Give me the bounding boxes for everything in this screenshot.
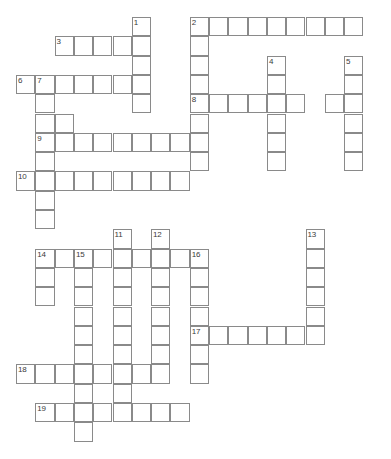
crossword-cell[interactable]	[325, 94, 344, 113]
crossword-cell[interactable]	[286, 17, 305, 36]
crossword-cell[interactable]	[132, 56, 151, 75]
crossword-cell[interactable]	[55, 249, 74, 268]
crossword-cell[interactable]: 19	[35, 403, 54, 422]
crossword-cell[interactable]	[209, 326, 228, 345]
crossword-cell[interactable]	[151, 326, 170, 345]
crossword-cell[interactable]	[55, 364, 74, 383]
crossword-cell[interactable]	[170, 171, 189, 190]
crossword-cell[interactable]	[267, 326, 286, 345]
crossword-cell[interactable]	[306, 268, 325, 287]
crossword-cell[interactable]	[132, 364, 151, 383]
crossword-cell[interactable]	[132, 94, 151, 113]
crossword-cell[interactable]	[170, 133, 189, 152]
crossword-cell[interactable]	[74, 403, 93, 422]
crossword-cell[interactable]	[190, 56, 209, 75]
crossword-cell[interactable]	[35, 114, 54, 133]
crossword-cell[interactable]	[209, 17, 228, 36]
crossword-cell[interactable]	[132, 133, 151, 152]
crossword-cell[interactable]	[267, 17, 286, 36]
crossword-cell[interactable]	[344, 17, 363, 36]
crossword-cell[interactable]	[306, 249, 325, 268]
crossword-cell[interactable]	[74, 36, 93, 55]
crossword-cell[interactable]	[228, 94, 247, 113]
crossword-cell[interactable]	[93, 364, 112, 383]
crossword-cell[interactable]	[151, 287, 170, 306]
crossword-cell[interactable]	[344, 152, 363, 171]
crossword-cell[interactable]	[113, 364, 132, 383]
crossword-cell[interactable]	[35, 171, 54, 190]
crossword-cell[interactable]	[190, 345, 209, 364]
crossword-cell[interactable]	[190, 307, 209, 326]
crossword-cell[interactable]	[190, 152, 209, 171]
crossword-cell[interactable]	[113, 171, 132, 190]
crossword-cell[interactable]: 9	[35, 133, 54, 152]
crossword-cell[interactable]	[113, 345, 132, 364]
crossword-cell[interactable]	[74, 287, 93, 306]
crossword-cell[interactable]	[55, 133, 74, 152]
crossword-cell[interactable]	[306, 17, 325, 36]
crossword-cell[interactable]	[209, 94, 228, 113]
crossword-cell[interactable]	[344, 75, 363, 94]
crossword-cell[interactable]	[132, 75, 151, 94]
crossword-cell[interactable]	[74, 133, 93, 152]
crossword-cell[interactable]	[267, 114, 286, 133]
crossword-cell[interactable]	[267, 133, 286, 152]
crossword-cell[interactable]	[74, 171, 93, 190]
crossword-cell[interactable]: 2	[190, 17, 209, 36]
crossword-cell[interactable]	[151, 133, 170, 152]
crossword-cell[interactable]: 11	[113, 229, 132, 248]
crossword-cell[interactable]	[267, 75, 286, 94]
crossword-cell[interactable]	[55, 171, 74, 190]
crossword-cell[interactable]	[325, 17, 344, 36]
crossword-cell[interactable]	[113, 75, 132, 94]
crossword-cell[interactable]: 5	[344, 56, 363, 75]
crossword-cell[interactable]	[113, 287, 132, 306]
crossword-cell[interactable]	[35, 268, 54, 287]
crossword-cell[interactable]	[132, 36, 151, 55]
crossword-cell[interactable]	[286, 94, 305, 113]
crossword-cell[interactable]	[55, 114, 74, 133]
crossword-cell[interactable]	[113, 403, 132, 422]
crossword-cell[interactable]	[170, 249, 189, 268]
crossword-cell[interactable]	[93, 171, 112, 190]
crossword-cell[interactable]	[113, 249, 132, 268]
crossword-cell[interactable]	[151, 307, 170, 326]
crossword-cell[interactable]	[93, 75, 112, 94]
crossword-cell[interactable]	[190, 75, 209, 94]
crossword-cell[interactable]	[151, 345, 170, 364]
crossword-cell[interactable]: 14	[35, 249, 54, 268]
crossword-cell[interactable]	[113, 268, 132, 287]
crossword-cell[interactable]: 1	[132, 17, 151, 36]
crossword-cell[interactable]: 6	[16, 75, 35, 94]
crossword-cell[interactable]	[286, 326, 305, 345]
crossword-cell[interactable]: 10	[16, 171, 35, 190]
crossword-cell[interactable]	[74, 307, 93, 326]
crossword-cell[interactable]	[248, 326, 267, 345]
crossword-cell[interactable]	[35, 364, 54, 383]
crossword-cell[interactable]	[248, 94, 267, 113]
crossword-cell[interactable]	[132, 403, 151, 422]
crossword-cell[interactable]	[74, 364, 93, 383]
crossword-cell[interactable]: 7	[35, 75, 54, 94]
crossword-cell[interactable]	[74, 268, 93, 287]
crossword-cell[interactable]	[35, 287, 54, 306]
crossword-cell[interactable]	[228, 326, 247, 345]
crossword-cell[interactable]: 12	[151, 229, 170, 248]
crossword-cell[interactable]: 8	[190, 94, 209, 113]
crossword-cell[interactable]	[248, 17, 267, 36]
crossword-cell[interactable]	[151, 171, 170, 190]
crossword-cell[interactable]	[113, 326, 132, 345]
crossword-cell[interactable]	[306, 287, 325, 306]
crossword-cell[interactable]	[344, 114, 363, 133]
crossword-cell[interactable]: 4	[267, 56, 286, 75]
crossword-cell[interactable]	[190, 114, 209, 133]
crossword-cell[interactable]: 17	[190, 326, 209, 345]
crossword-cell[interactable]	[190, 36, 209, 55]
crossword-cell[interactable]	[151, 268, 170, 287]
crossword-cell[interactable]	[113, 133, 132, 152]
crossword-cell[interactable]	[93, 249, 112, 268]
crossword-cell[interactable]	[344, 133, 363, 152]
crossword-cell[interactable]	[74, 345, 93, 364]
crossword-cell[interactable]	[170, 403, 189, 422]
crossword-cell[interactable]	[93, 403, 112, 422]
